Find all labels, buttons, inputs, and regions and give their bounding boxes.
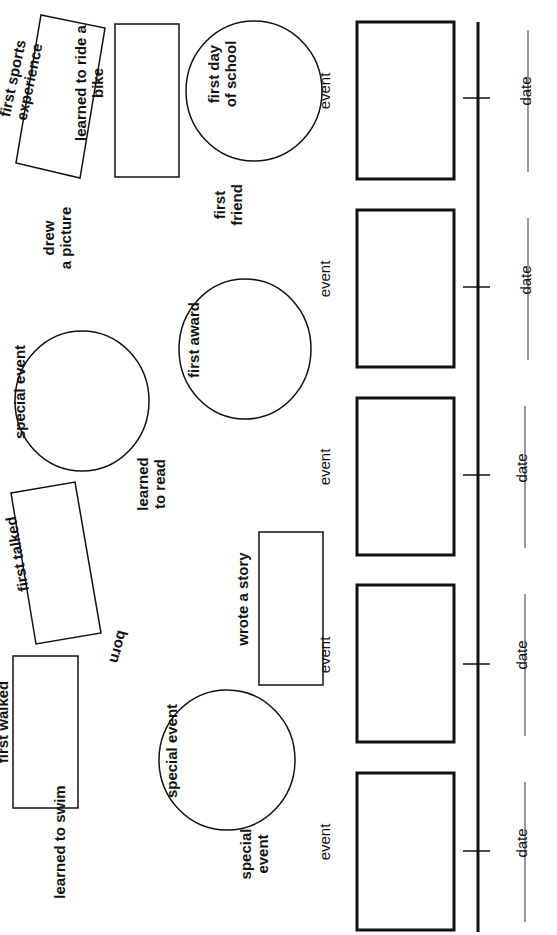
first-day-of-school-line-2: of school [222, 40, 239, 107]
first-walked-line-1: first walked [0, 681, 11, 764]
first-award-label: first award [185, 302, 202, 378]
date-label-2: date [518, 266, 535, 295]
event-box-1[interactable] [357, 22, 454, 179]
date-label-4: date [514, 641, 531, 670]
first-award-line-1: first award [185, 302, 202, 378]
event-label-4: event [316, 637, 333, 674]
first-friend-line-1: first [211, 184, 228, 226]
date-label-1: date [518, 77, 535, 106]
wrote-a-story-label: wrote a story [235, 553, 252, 646]
learned-to-read-line-2: to read [151, 457, 168, 510]
learned-to-swim-label: learned to swim [52, 786, 69, 899]
drew-a-picture-line-2: a picture [57, 206, 74, 269]
learned-to-ride-a-bike-line-2: bike [89, 25, 106, 141]
wrote-a-story-line-1: wrote a story [235, 553, 252, 646]
event-label-2: event [316, 261, 333, 298]
wrote-a-story-box [259, 532, 323, 685]
learned-to-read-line-1: learned [134, 457, 151, 510]
learned-to-read-label: learned to read [134, 457, 169, 510]
special-event-bottom-label: special event [163, 704, 180, 798]
drew-a-picture-label: drew a picture [39, 206, 74, 269]
special-event-free-label: special event [236, 828, 271, 879]
learned-to-ride-a-bike-box [115, 24, 179, 177]
learned-to-ride-a-bike-line-1: learned to ride a [72, 25, 89, 141]
event-label-3: event [316, 449, 333, 486]
special-event-top-circle [15, 331, 149, 471]
learned-to-ride-a-bike-label: learned to ride a bike [72, 25, 107, 141]
event-label-5: event [316, 824, 333, 861]
first-day-of-school-line-1: first day [204, 40, 221, 107]
learned-to-swim-line-1: learned to swim [52, 786, 69, 899]
date-label-5: date [514, 829, 531, 858]
event-box-3[interactable] [357, 398, 454, 555]
special-event-free-line-1: special [236, 828, 253, 879]
first-friend-line-2: friend [228, 184, 245, 226]
event-box-2[interactable] [357, 210, 454, 367]
special-event-top-label: special event [11, 345, 28, 439]
special-event-top-line-1: special event [11, 345, 28, 439]
event-box-4[interactable] [357, 585, 454, 742]
first-walked-label: first walked [0, 681, 11, 764]
date-label-3: date [514, 454, 531, 483]
event-box-5[interactable] [357, 773, 454, 930]
first-day-of-school-label: first day of school [204, 40, 239, 107]
first-friend-label: first friend [211, 184, 246, 226]
special-event-bottom-line-1: special event [163, 704, 180, 798]
special-event-free-line-2: event [254, 828, 271, 879]
event-label-1: event [316, 73, 333, 110]
drew-a-picture-line-1: drew [39, 206, 56, 269]
